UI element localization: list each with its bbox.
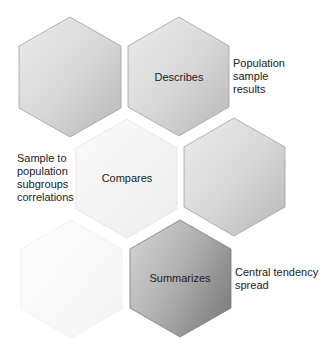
note-describes: Population sample results	[233, 57, 285, 96]
hexagon-label-summarizes: Summarizes	[149, 272, 211, 284]
note-summarizes: Central tendency spread	[235, 266, 318, 292]
note-line: Central tendency	[235, 266, 318, 279]
hexagon-1	[19, 17, 121, 137]
note-line: sample	[233, 70, 285, 83]
note-line: spread	[235, 279, 318, 292]
hexagon-label-compares: Compares	[102, 172, 153, 184]
note-line: population	[17, 165, 74, 178]
note-line: Sample to	[17, 152, 74, 165]
hexagon-summarizes: Summarizes	[130, 220, 231, 337]
hexagon-compares: Compares	[76, 119, 177, 238]
hexagon-label-describes: Describes	[155, 71, 204, 83]
note-line: Population	[233, 57, 285, 70]
note-line: correlations	[17, 191, 74, 204]
note-compares: Sample to population subgroups correlati…	[17, 152, 74, 204]
hexagon-4	[184, 118, 285, 236]
hexagon-describes: Describes	[128, 17, 229, 136]
note-line: results	[233, 83, 285, 96]
note-line: subgroups	[17, 178, 74, 191]
hexagon-5	[21, 220, 122, 338]
